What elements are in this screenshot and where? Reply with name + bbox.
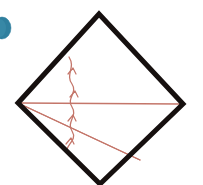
ray-lower — [18, 103, 140, 160]
diamond-outline — [18, 14, 183, 184]
ray-upper — [18, 103, 181, 104]
blue-marker-group — [0, 17, 11, 39]
figure-canvas — [0, 0, 203, 185]
ray-diagram-svg — [0, 0, 203, 185]
wavefront-arrow-mid-upper-icon — [70, 91, 78, 97]
wavefront-arrow-upper-icon — [68, 68, 76, 74]
